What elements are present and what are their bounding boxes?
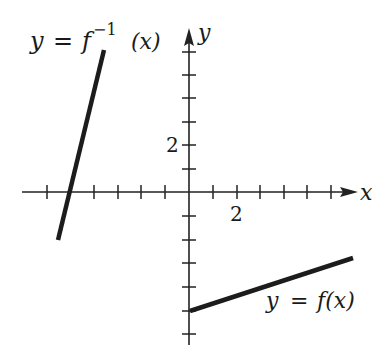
y-tick-label: 2 — [166, 133, 179, 157]
x-axis-label: x — [360, 180, 373, 205]
y-axis — [182, 28, 196, 345]
svg-text:=: = — [290, 288, 308, 313]
f-inverse-label: y = f −1 (x) — [29, 20, 161, 55]
svg-text:=: = — [53, 27, 73, 55]
svg-text:y: y — [29, 27, 44, 55]
svg-text:−1: −1 — [93, 20, 117, 39]
f-inverse-line — [58, 50, 104, 240]
svg-text:f(x): f(x) — [315, 288, 355, 313]
x-tick-label: 2 — [230, 202, 243, 226]
graph: x y 2 2 y = f −1 (x) y = f(x) — [0, 0, 384, 363]
y-axis-label: y — [197, 20, 211, 45]
svg-text:(x): (x) — [131, 29, 161, 54]
svg-text:y: y — [265, 288, 279, 313]
f-label: y = f(x) — [265, 288, 355, 313]
